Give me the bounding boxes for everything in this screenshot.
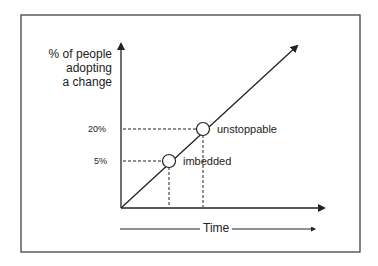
diagram-canvas (0, 0, 378, 266)
label-imbedded: imbedded (183, 155, 231, 168)
y-axis-label-line3: a change (48, 75, 112, 89)
tick-20: 20% (88, 123, 106, 136)
point-imbedded (163, 155, 176, 168)
y-axis-label: % of people adopting a change (48, 47, 112, 89)
y-axis-label-line1: % of people (48, 47, 112, 61)
tick-5: 5% (94, 155, 107, 168)
x-axis-label: Time (203, 222, 229, 235)
y-axis-label-line2: adopting (48, 61, 112, 75)
point-unstoppable (197, 123, 210, 136)
label-unstoppable: unstoppable (217, 123, 277, 136)
